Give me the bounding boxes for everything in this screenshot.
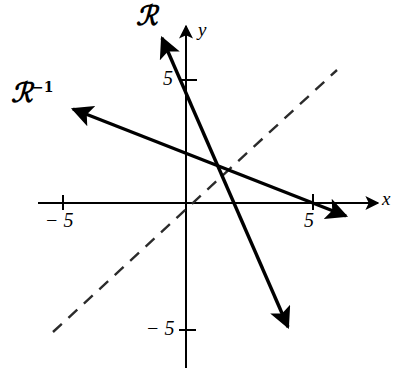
- relation-inverse-figure: y x − 5 5 5 − 5 ℛ ℛ−1: [0, 0, 405, 373]
- relation-r-inverse-exponent: −1: [32, 79, 53, 95]
- y-axis-tick-label-negative-5: − 5: [146, 318, 175, 338]
- axis-lines: [38, 26, 378, 368]
- x-axis-label: x: [382, 189, 390, 208]
- graph-canvas: [0, 0, 405, 373]
- x-axis-tick-label-negative-5: − 5: [45, 210, 74, 230]
- relation-r-inverse-base: ℛ: [11, 77, 32, 108]
- relation-r-inverse-line: [73, 109, 346, 216]
- relation-r-label: ℛ: [136, 2, 157, 29]
- relation-r-line: [162, 38, 288, 327]
- identity-line-y-equals-x: [53, 70, 337, 332]
- y-axis-label: y: [198, 20, 206, 39]
- y-axis-tick-label-positive-5: 5: [163, 68, 173, 88]
- relation-r-inverse-label: ℛ−1: [11, 79, 53, 106]
- tick-marks: [63, 80, 313, 330]
- x-axis-tick-label-positive-5: 5: [304, 210, 314, 230]
